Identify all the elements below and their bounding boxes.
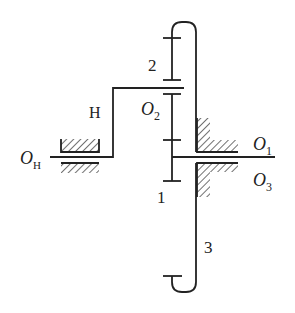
- label-gear-3: 3: [204, 238, 213, 257]
- label-oh: OH: [20, 148, 41, 171]
- label-o3: O3: [253, 170, 272, 194]
- planet-gear-2: [163, 38, 181, 80]
- label-gear-1: 1: [157, 188, 166, 207]
- frame-lower: [197, 163, 238, 197]
- label-gear-2: 2: [148, 56, 157, 75]
- frame-upper: [197, 118, 238, 152]
- sun-gear-1: [163, 94, 181, 181]
- carrier-bearing: [61, 139, 99, 173]
- label-o1: O1: [253, 134, 272, 158]
- label-carrier-h: H: [89, 104, 101, 121]
- label-o2: O2: [141, 99, 160, 123]
- gear-train-diagram: 2 H O2 OH O1 O3 1 3: [0, 0, 295, 313]
